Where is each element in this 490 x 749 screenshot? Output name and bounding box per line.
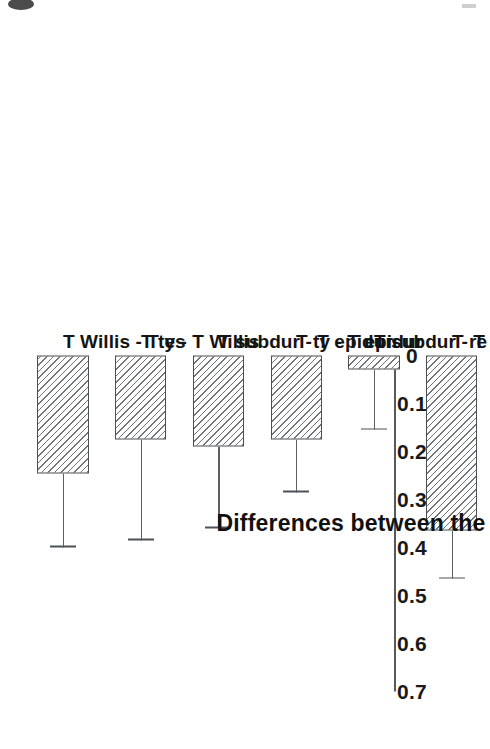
category-label: T re - T Willis (452, 330, 490, 352)
value-tick-label: 0.4 (397, 535, 427, 559)
bar[interactable] (193, 355, 244, 446)
bar[interactable] (271, 355, 322, 439)
error-bar-cap (439, 577, 465, 579)
value-tick-label: 0.5 (397, 583, 427, 607)
value-tick-label: 0.3 (397, 487, 427, 511)
error-bar-stem (374, 369, 375, 429)
error-bar-stem (63, 473, 64, 547)
bar[interactable] (115, 355, 166, 439)
error-bar-cap (128, 538, 154, 540)
error-bar-stem (296, 439, 297, 492)
value-tick-label: 0.7 (397, 679, 427, 703)
error-bar-stem (452, 530, 453, 578)
value-axis-title: Differences between the temperatures - °… (216, 510, 490, 537)
bar[interactable] (426, 355, 477, 530)
error-bar-cap (283, 490, 309, 492)
error-bar-stem (141, 439, 142, 540)
value-tick-label: 0.2 (397, 439, 427, 463)
bar[interactable] (348, 355, 399, 369)
value-tick-label: 0 (406, 343, 418, 367)
bar[interactable] (37, 355, 88, 473)
value-tick-label: 0.6 (397, 631, 427, 655)
rotated-chart-stage: T Willis - T esT ty - T WillisT subdur -… (0, 0, 490, 749)
error-bar-cap (50, 546, 76, 548)
error-bar-cap (361, 428, 387, 430)
value-tick-label: 0.1 (397, 391, 427, 415)
figure-root: T Willis - T esT ty - T WillisT subdur -… (0, 0, 490, 749)
